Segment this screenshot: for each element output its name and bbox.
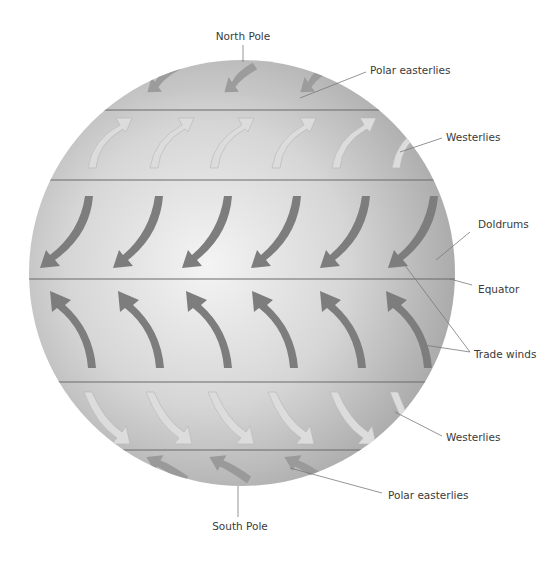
leader-westerlies-south bbox=[395, 412, 442, 436]
label-westerlies-south: Westerlies bbox=[446, 431, 500, 443]
label-westerlies-north: Westerlies bbox=[446, 131, 500, 143]
wind-belts-diagram: North Pole Polar easterlies Westerlies D… bbox=[0, 0, 552, 563]
label-polar-easterlies-north: Polar easterlies bbox=[370, 64, 450, 76]
leader-polar-easterlies-south bbox=[290, 468, 382, 493]
label-polar-easterlies-south: Polar easterlies bbox=[388, 489, 468, 501]
label-trade-winds: Trade winds bbox=[473, 348, 536, 360]
label-equator: Equator bbox=[478, 283, 520, 295]
label-north-pole: North Pole bbox=[216, 30, 270, 42]
label-doldrums: Doldrums bbox=[478, 218, 529, 230]
label-south-pole: South Pole bbox=[212, 520, 268, 532]
